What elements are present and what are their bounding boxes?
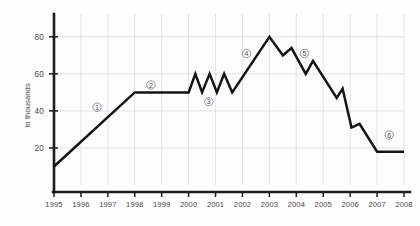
x-tick-label: 1996 <box>72 200 89 209</box>
x-tick-label: 2001 <box>207 200 224 209</box>
x-tick-label: 2007 <box>368 200 385 209</box>
horizontal-gridlines <box>54 37 404 148</box>
annotation-label: 5 <box>302 50 306 57</box>
x-tick-label: 1999 <box>153 200 170 209</box>
y-tick-label: 60 <box>34 70 44 79</box>
annotation-label: 2 <box>149 82 153 89</box>
annotation-markers: 123456 <box>93 49 394 139</box>
x-tick-label: 2004 <box>288 200 305 209</box>
x-tick-label: 2002 <box>234 200 251 209</box>
annotation-label: 6 <box>387 132 391 139</box>
y-axis-tick-labels: 20406080 <box>34 33 44 153</box>
x-tick-label: 2003 <box>261 200 278 209</box>
annotation-marker-5: 5 <box>300 49 308 57</box>
annotation-marker-3: 3 <box>205 97 213 105</box>
y-tick-label: 40 <box>34 107 44 116</box>
line-chart: 20406080 1995199619971998199920002001200… <box>0 0 420 226</box>
x-tick-label: 1995 <box>45 200 62 209</box>
y-tick-label: 80 <box>34 33 44 42</box>
annotation-label: 4 <box>245 50 249 57</box>
vertical-gridlines <box>54 14 404 185</box>
chart-canvas: 20406080 1995199619971998199920002001200… <box>0 0 420 226</box>
annotation-marker-4: 4 <box>242 49 250 57</box>
x-tick-label: 2006 <box>342 200 359 209</box>
annotation-label: 1 <box>95 104 99 111</box>
y-axis-title: In thousands <box>23 83 32 128</box>
annotation-label: 3 <box>207 98 211 105</box>
annotation-marker-2: 2 <box>147 81 155 89</box>
x-tick-label: 1998 <box>126 200 143 209</box>
annotation-marker-6: 6 <box>385 131 393 139</box>
data-series-line <box>54 37 404 167</box>
x-tick-label: 2000 <box>180 200 197 209</box>
x-tick-label: 2008 <box>395 200 412 209</box>
annotation-marker-1: 1 <box>93 103 101 111</box>
y-tick-label: 20 <box>34 144 44 153</box>
x-axis-tick-labels: 1995199619971998199920002001200220032004… <box>45 200 412 209</box>
x-tick-label: 2005 <box>315 200 332 209</box>
x-tick-label: 1997 <box>99 200 116 209</box>
